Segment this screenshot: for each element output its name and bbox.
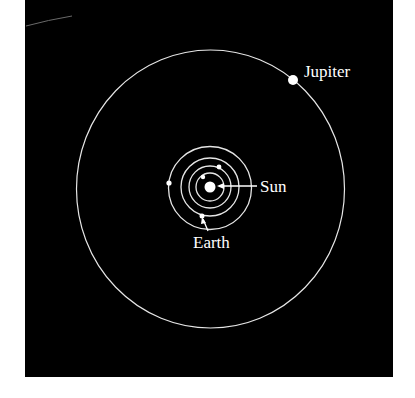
label-jupiter: Jupiter	[304, 62, 351, 81]
label-sun: Sun	[260, 177, 287, 196]
planet-mars	[166, 180, 171, 185]
sun	[205, 182, 216, 193]
solar-system-diagram: Jupiter Sun Earth	[0, 0, 415, 398]
planet-venus	[217, 165, 222, 170]
planet-mercury	[201, 175, 205, 179]
label-earth: Earth	[193, 233, 230, 252]
planet-jupiter	[288, 75, 298, 85]
